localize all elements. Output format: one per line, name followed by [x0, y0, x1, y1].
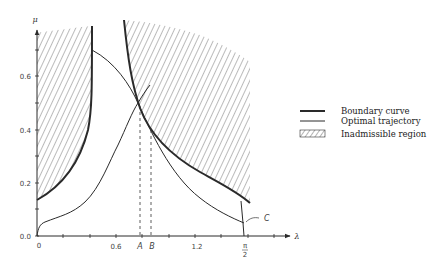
legend: Boundary curve Optimal trajectory Inadmi… — [300, 106, 427, 139]
legend-item-trajectory: Optimal trajectory — [300, 116, 421, 126]
point-label-c: C — [264, 214, 270, 223]
x-tick-label-1: 0.6 — [110, 243, 122, 251]
svg-text:Optimal trajectory: Optimal trajectory — [341, 116, 421, 126]
y-tick-label-3: 0.6 — [20, 73, 32, 81]
svg-text:Inadmissible region: Inadmissible region — [341, 129, 427, 139]
svg-text:π: π — [243, 242, 248, 250]
x-axis-label: λ — [293, 232, 299, 241]
terminal-segment — [241, 201, 244, 236]
phase-diagram: 0.0 0.2 0.4 0.6 μ 0 0.6 1.2 A B π 2 λ C … — [0, 0, 442, 275]
y-tick-label-1: 0.2 — [20, 180, 31, 188]
legend-item-inadmissible: Inadmissible region — [300, 129, 427, 139]
y-tick-label-0: 0.0 — [20, 233, 31, 241]
svg-text:2: 2 — [243, 251, 247, 259]
x-label-b: B — [149, 242, 155, 251]
y-tick-label-2: 0.4 — [20, 127, 32, 135]
y-axis-label: μ — [32, 15, 37, 24]
legend-item-boundary: Boundary curve — [300, 106, 410, 116]
x-tick-label-2: 1.2 — [191, 243, 202, 251]
svg-text:Boundary curve: Boundary curve — [341, 106, 410, 116]
x-label-pi-over-2: π 2 — [242, 242, 248, 259]
inadmissible-region-left — [37, 26, 92, 200]
x-label-a: A — [136, 242, 142, 251]
c-pointer — [246, 218, 259, 222]
x-tick-label-0: 0 — [37, 242, 41, 250]
inadmissible-region-right — [124, 20, 250, 203]
